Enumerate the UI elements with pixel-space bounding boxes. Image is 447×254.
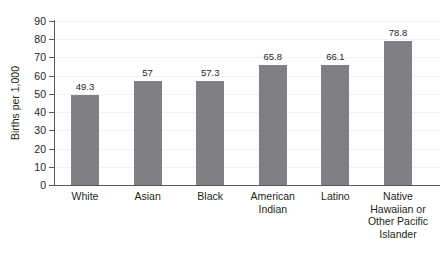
y-tick-label: 90 [12,16,46,27]
y-tick-label: 20 [12,144,46,155]
y-tick-label: 10 [12,162,46,173]
y-tick-label: 80 [12,34,46,45]
bar-value-label: 57.3 [180,68,240,78]
y-tick-mark [49,167,54,168]
bar [321,65,349,185]
bar-chart-figure: Births per 1,000 9080706050403020100 49.… [0,0,447,254]
y-tick-mark [49,149,54,150]
bar [134,81,162,185]
category-label-line: Other Pacific [361,215,435,228]
y-tick-mark [49,112,54,113]
y-tick-label: 50 [12,89,46,100]
y-tick-label: 70 [12,52,46,63]
bar [71,95,99,185]
category-label-line: Indian [236,203,310,216]
category-label: NativeHawaiian orOther PacificIslander [361,190,435,240]
y-tick-mark [49,185,54,186]
bar [259,65,287,185]
bar-value-label: 78.8 [368,28,428,38]
y-tick-mark [49,57,54,58]
bar-value-label: 66.1 [305,52,365,62]
bar-value-label: 57 [118,68,178,78]
bars-layer [55,21,440,185]
x-axis-line [55,185,440,186]
category-label-line: Islander [361,228,435,241]
y-tick-mark [49,130,54,131]
y-axis-ticks: 9080706050403020100 [6,0,46,254]
category-label-line: Native [361,190,435,203]
bar [384,41,412,185]
bar [196,81,224,185]
y-tick-mark [49,39,54,40]
bar-value-label: 49.3 [55,82,115,92]
y-tick-mark [49,76,54,77]
y-tick-label: 0 [12,180,46,191]
y-tick-label: 40 [12,107,46,118]
bar-value-label: 65.8 [243,52,303,62]
x-axis-category-labels: WhiteAsianBlackAmericanIndianLatinoNativ… [55,190,440,254]
category-label-line: Hawaiian or [361,203,435,216]
y-tick-label: 30 [12,125,46,136]
y-tick-mark [49,94,54,95]
y-tick-label: 60 [12,71,46,82]
y-tick-mark [49,21,54,22]
